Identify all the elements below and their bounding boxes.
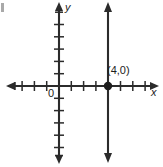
data-point-label: (4,0) bbox=[107, 65, 130, 76]
x-axis-label: x bbox=[151, 87, 157, 98]
y-axis bbox=[54, 2, 64, 164]
x-axis-left-arrowhead bbox=[6, 82, 15, 90]
line-up-arrowhead bbox=[104, 2, 112, 12]
origin-label: 0 bbox=[48, 88, 54, 99]
coordinate-plane-graphic bbox=[0, 0, 163, 167]
y-axis-label: y bbox=[65, 2, 71, 13]
y-axis-down-arrowhead bbox=[55, 155, 63, 164]
x-axis bbox=[6, 81, 159, 91]
y-axis-up-arrowhead bbox=[55, 2, 63, 11]
coordinate-plane-figure: y x 0 (4,0) bbox=[0, 0, 163, 167]
line-down-arrowhead bbox=[104, 153, 112, 163]
data-point-marker bbox=[104, 82, 112, 90]
